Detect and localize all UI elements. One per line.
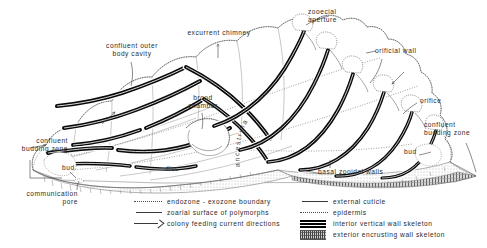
legend-item-endozone-exozone-boundary: endozone - exozone boundary	[134, 196, 280, 207]
thick-black-band-swatch-icon	[300, 219, 330, 228]
label-orifice: orifice	[420, 97, 441, 105]
solid-line-swatch-icon	[134, 208, 164, 217]
label-communication-pore: communication pore	[8, 190, 78, 207]
legend-label: endozone - exozone boundary	[167, 198, 271, 205]
legend-label: exterior encrusting wall skeleton	[333, 231, 445, 238]
solid-line-swatch-icon	[300, 197, 330, 206]
dotted-line-swatch-icon	[300, 208, 330, 217]
label-line-1: confluent	[6, 137, 68, 145]
label-confluent-budding-zone-left: confluent budding zone	[6, 137, 68, 154]
label-line-1: communication	[8, 190, 78, 198]
legend-label: external cuticle	[333, 198, 386, 205]
legend-label: epidermis	[333, 209, 367, 216]
label-basal-zooidal-walls: basal zooidal walls	[318, 168, 383, 176]
figure-canvas: ancestrula confluent outer body cavity e…	[0, 0, 487, 248]
legend-item-feeding-current: colony feeding current directions	[134, 218, 280, 229]
legend-item-epidermis: epidermis	[300, 207, 445, 218]
legend-item-exterior-encrusting-wall-skeleton: exterior encrusting wall skeleton	[300, 229, 445, 240]
label-excurrent-chimney: excurrent chimney	[173, 29, 265, 37]
legend-label: colony feeding current directions	[167, 220, 280, 227]
legend-label: interior vertical wall skeleton	[333, 220, 433, 227]
legend-label: zoarial surface of polymorphs	[167, 209, 269, 216]
label-disc: disc	[165, 165, 179, 173]
label-line-1: zooecial	[308, 8, 337, 16]
ancestrula-label: ancestrula	[233, 117, 249, 167]
legend-left: endozone - exozone boundary zoarial surf…	[134, 196, 280, 229]
label-zooecial-aperture: zooecial aperture	[308, 8, 337, 25]
label-line-2: chamber	[179, 102, 227, 110]
legend-item-external-cuticle: external cuticle	[300, 196, 445, 207]
label-line-1: brood	[179, 94, 227, 102]
label-line-2: body cavity	[86, 50, 178, 58]
label-line-2: pore	[8, 198, 78, 206]
label-line-1: confluent	[424, 121, 470, 129]
label-confluent-outer-body-cavity: confluent outer body cavity	[86, 42, 178, 59]
label-bud-left: bud	[62, 164, 75, 172]
svg-text:ancestrula: ancestrula	[233, 117, 249, 167]
label-bud-right: bud	[404, 148, 417, 156]
dotted-line-swatch-icon	[134, 197, 164, 206]
label-line-2: budding zone	[6, 145, 68, 153]
label-line-2: budding zone	[424, 129, 470, 137]
label-line-2: aperture	[308, 16, 337, 24]
arrow-line-swatch-icon	[134, 219, 164, 228]
legend-item-zoarial-surface: zoarial surface of polymorphs	[134, 207, 280, 218]
label-confluent-budding-zone-right: confluent budding zone	[424, 121, 470, 138]
legend-right: external cuticle epidermis interior vert…	[300, 196, 445, 240]
label-brood-chamber: brood chamber	[179, 94, 227, 111]
legend-item-interior-vertical-wall-skeleton: interior vertical wall skeleton	[300, 218, 445, 229]
label-line-1: confluent outer	[86, 42, 178, 50]
label-orificial-wall: orificial wall	[375, 47, 416, 55]
hatched-band-swatch-icon	[300, 230, 330, 239]
